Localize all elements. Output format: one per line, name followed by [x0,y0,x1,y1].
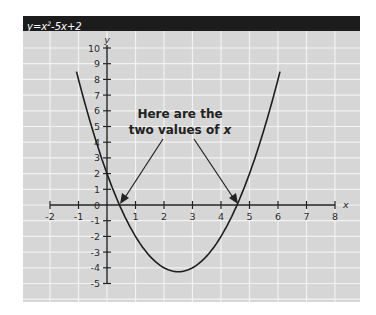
y-tick-label: -4 [91,262,100,273]
y-tick-label: -5 [91,278,100,289]
y-tick-label: 3 [94,152,100,163]
x-axis-label: x [342,199,349,210]
annotation-line1: Here are the [137,107,222,121]
grid-lines [23,31,360,302]
arrow-head-right-icon [229,193,238,204]
annotation-line2: two values of x [129,123,233,137]
x-tick-label: -1 [74,211,83,222]
parabola-chart: -2-112345678109876543210-1-2-3-4-5xy Her… [0,0,376,315]
x-tick-label: 7 [303,211,309,222]
y-tick-label: 6 [94,105,100,116]
y-tick-label: 9 [94,58,100,69]
x-tick-label: 2 [161,211,167,222]
y-tick-label: -3 [91,247,100,258]
y-tick-label: 7 [94,90,100,101]
y-tick-label: 2 [94,168,100,179]
x-tick-label: 8 [332,211,338,222]
y-tick-label: -1 [91,215,100,226]
x-tick-label: 4 [218,211,224,222]
y-tick-label: 1 [94,184,100,195]
arrow-head-left-icon [120,193,129,204]
axes: -2-112345678109876543210-1-2-3-4-5xy [45,34,349,289]
y-axis-label: y [103,34,110,45]
x-tick-label: 6 [275,211,281,222]
x-tick-label: 5 [246,211,252,222]
y-tick-label: 8 [94,74,100,85]
y-tick-label: 0 [94,200,100,211]
y-tick-label: -2 [91,231,100,242]
y-tick-label: 10 [88,43,100,54]
x-tick-label: 1 [132,211,138,222]
x-tick-label: 3 [189,211,195,222]
x-tick-label: -2 [45,211,54,222]
annotation-arrows [120,139,238,204]
y-tick-label: 5 [94,121,100,132]
